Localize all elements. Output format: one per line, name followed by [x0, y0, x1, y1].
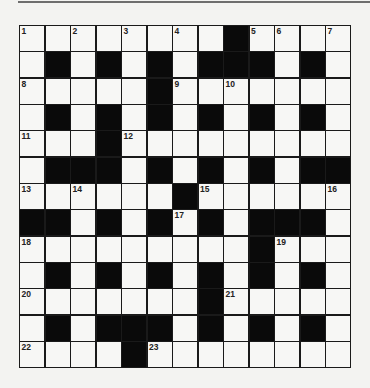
grid-cell[interactable] [173, 237, 197, 262]
grid-cell[interactable] [122, 79, 146, 104]
grid-cell[interactable] [97, 184, 121, 209]
grid-cell[interactable] [46, 26, 70, 51]
grid-cell[interactable]: 18 [20, 237, 44, 262]
grid-cell[interactable] [301, 237, 325, 262]
grid-cell[interactable] [250, 79, 274, 104]
grid-cell[interactable]: 22 [20, 342, 44, 367]
grid-cell[interactable] [20, 105, 44, 130]
grid-cell[interactable] [250, 131, 274, 156]
grid-cell[interactable] [275, 316, 299, 341]
grid-cell[interactable] [148, 26, 172, 51]
grid-cell[interactable] [46, 184, 70, 209]
grid-cell[interactable] [71, 316, 95, 341]
grid-cell[interactable]: 1 [20, 26, 44, 51]
grid-cell[interactable] [326, 105, 350, 130]
grid-cell[interactable] [122, 210, 146, 235]
grid-cell[interactable] [275, 263, 299, 288]
grid-cell[interactable] [301, 184, 325, 209]
grid-cell[interactable]: 9 [173, 79, 197, 104]
grid-cell[interactable] [173, 52, 197, 77]
grid-cell[interactable] [20, 158, 44, 183]
grid-cell[interactable] [301, 79, 325, 104]
grid-cell[interactable] [301, 289, 325, 314]
grid-cell[interactable]: 19 [275, 237, 299, 262]
grid-cell[interactable] [122, 52, 146, 77]
grid-cell[interactable] [97, 342, 121, 367]
grid-cell[interactable]: 6 [275, 26, 299, 51]
grid-cell[interactable] [199, 237, 223, 262]
grid-cell[interactable] [46, 289, 70, 314]
grid-cell[interactable] [326, 210, 350, 235]
grid-cell[interactable] [46, 131, 70, 156]
grid-cell[interactable] [275, 52, 299, 77]
grid-cell[interactable] [71, 342, 95, 367]
grid-cell[interactable]: 11 [20, 131, 44, 156]
grid-cell[interactable] [250, 342, 274, 367]
grid-cell[interactable] [224, 105, 248, 130]
grid-cell[interactable] [275, 105, 299, 130]
grid-cell[interactable]: 23 [148, 342, 172, 367]
grid-cell[interactable]: 7 [326, 26, 350, 51]
grid-cell[interactable] [148, 237, 172, 262]
grid-cell[interactable] [122, 289, 146, 314]
grid-cell[interactable] [173, 105, 197, 130]
grid-cell[interactable] [301, 342, 325, 367]
grid-cell[interactable]: 5 [250, 26, 274, 51]
grid-cell[interactable] [173, 263, 197, 288]
grid-cell[interactable] [122, 184, 146, 209]
grid-cell[interactable] [71, 52, 95, 77]
grid-cell[interactable] [71, 289, 95, 314]
grid-cell[interactable] [275, 289, 299, 314]
grid-cell[interactable] [275, 79, 299, 104]
grid-cell[interactable] [71, 263, 95, 288]
grid-cell[interactable]: 14 [71, 184, 95, 209]
grid-cell[interactable] [122, 105, 146, 130]
grid-cell[interactable] [224, 316, 248, 341]
grid-cell[interactable]: 13 [20, 184, 44, 209]
grid-cell[interactable] [173, 342, 197, 367]
grid-cell[interactable] [199, 79, 223, 104]
grid-cell[interactable] [224, 263, 248, 288]
grid-cell[interactable] [122, 237, 146, 262]
grid-cell[interactable]: 10 [224, 79, 248, 104]
grid-cell[interactable] [173, 158, 197, 183]
grid-cell[interactable] [97, 26, 121, 51]
grid-cell[interactable] [224, 342, 248, 367]
grid-cell[interactable] [71, 210, 95, 235]
grid-cell[interactable] [326, 316, 350, 341]
grid-cell[interactable] [326, 263, 350, 288]
grid-cell[interactable]: 15 [199, 184, 223, 209]
grid-cell[interactable]: 16 [326, 184, 350, 209]
grid-cell[interactable]: 12 [122, 131, 146, 156]
grid-cell[interactable] [326, 237, 350, 262]
grid-cell[interactable] [224, 210, 248, 235]
grid-cell[interactable]: 3 [122, 26, 146, 51]
grid-cell[interactable] [224, 184, 248, 209]
grid-cell[interactable] [20, 263, 44, 288]
grid-cell[interactable] [301, 131, 325, 156]
grid-cell[interactable] [326, 52, 350, 77]
grid-cell[interactable] [97, 289, 121, 314]
grid-cell[interactable] [326, 131, 350, 156]
grid-cell[interactable] [148, 289, 172, 314]
grid-cell[interactable] [71, 237, 95, 262]
grid-cell[interactable] [224, 158, 248, 183]
grid-cell[interactable] [275, 131, 299, 156]
grid-cell[interactable] [326, 289, 350, 314]
grid-cell[interactable] [122, 158, 146, 183]
grid-cell[interactable] [173, 131, 197, 156]
grid-cell[interactable] [122, 263, 146, 288]
grid-cell[interactable]: 4 [173, 26, 197, 51]
grid-cell[interactable] [97, 79, 121, 104]
grid-cell[interactable] [301, 26, 325, 51]
grid-cell[interactable] [199, 131, 223, 156]
grid-cell[interactable] [275, 184, 299, 209]
grid-cell[interactable] [326, 79, 350, 104]
grid-cell[interactable]: 17 [173, 210, 197, 235]
grid-cell[interactable] [20, 316, 44, 341]
grid-cell[interactable] [199, 342, 223, 367]
grid-cell[interactable] [326, 342, 350, 367]
grid-cell[interactable] [173, 289, 197, 314]
grid-cell[interactable] [275, 342, 299, 367]
grid-cell[interactable] [250, 184, 274, 209]
